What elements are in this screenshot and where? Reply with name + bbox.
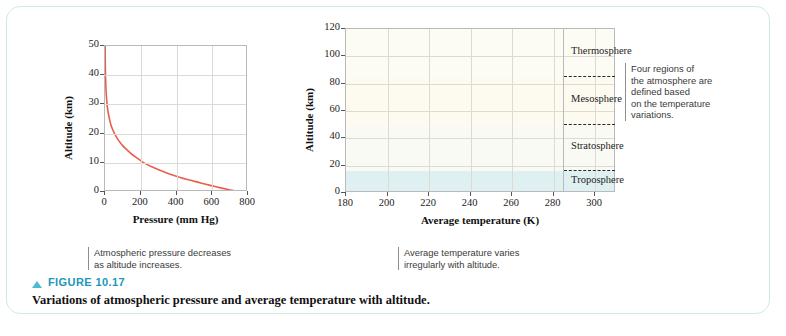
temperature-x-axis-title: Average temperature (K) [421,214,539,226]
x-tick-label: 220 [408,197,448,208]
y-tick-label: 20 [317,158,340,169]
x-tick-label: 200 [367,197,407,208]
y-tick-label: 120 [317,21,340,32]
x-tick-label: 260 [491,197,531,208]
figure-caption: Variations of atmospheric pressure and a… [32,293,430,308]
atmosphere-region-column: TroposphereStratosphereMesosphereThermos… [563,28,615,192]
callout-pressure: Atmospheric pressure decreases as altitu… [88,247,274,270]
region-label-mesosphere: Mesosphere [571,93,622,104]
callout-regions: Four regions of the atmosphere are defin… [625,63,771,121]
gridline-vertical [512,29,513,191]
region-label-stratosphere: Stratosphere [571,140,624,151]
x-tick-mark [470,192,471,196]
region-boundary-line [564,76,615,77]
figure-number: FIGURE 10.17 [48,276,125,288]
x-tick-label: 180 [325,197,365,208]
y-tick-mark [341,110,345,111]
y-tick-mark [341,55,345,56]
y-tick-mark [341,83,345,84]
y-tick-label: 60 [317,103,340,114]
y-tick-label: 0 [317,185,340,196]
gridline-vertical [554,29,555,191]
region-label-troposphere: Troposphere [571,174,624,185]
x-tick-mark [387,192,388,196]
x-tick-mark [345,192,346,196]
region-label-thermosphere: Thermosphere [571,45,632,56]
x-tick-mark [553,192,554,196]
triangle-up-icon [32,281,42,288]
x-tick-label: 280 [533,197,573,208]
x-tick-mark [428,192,429,196]
gridline-vertical [471,29,472,191]
x-tick-label: 240 [450,197,490,208]
temperature-y-axis-title: Altitude (km) [303,88,315,152]
x-tick-mark [511,192,512,196]
region-boundary-line [564,124,615,125]
x-tick-mark [594,192,595,196]
x-tick-label: 300 [574,197,614,208]
callout-temperature: Average temperature varies irregularly w… [398,247,594,270]
y-tick-label: 80 [317,76,340,87]
gridline-vertical [388,29,389,191]
y-tick-label: 100 [317,48,340,59]
y-tick-mark [341,137,345,138]
y-tick-mark [341,165,345,166]
y-tick-label: 40 [317,130,340,141]
figure-root: Altitude (km) Pressure (mm Hg) 010203040… [0,0,786,336]
gridline-vertical [429,29,430,191]
region-boundary-line [564,170,615,171]
y-tick-mark [341,28,345,29]
